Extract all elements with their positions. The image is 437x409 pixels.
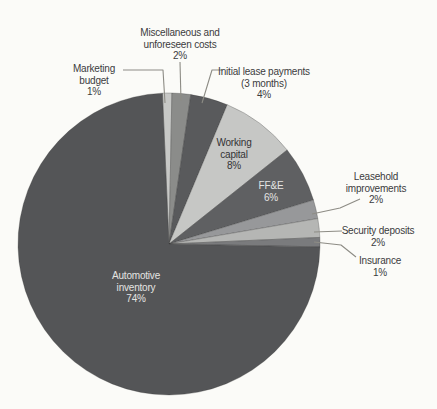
label-value: 2%	[342, 237, 415, 249]
label-line: Working	[216, 137, 251, 149]
pie-chart-figure: Marketing budget 1% Miscellaneous and un…	[0, 0, 437, 409]
label-value: 2%	[346, 194, 406, 206]
label-leasehold-improvements: Leasehold improvements 2%	[346, 171, 406, 206]
label-line: Miscellaneous and	[140, 27, 219, 39]
label-ffe: FF&E 6%	[259, 180, 284, 203]
label-line: Leasehold	[346, 171, 406, 183]
label-value: 6%	[259, 192, 284, 204]
label-value: 8%	[216, 160, 251, 172]
label-value: 1%	[73, 86, 115, 98]
label-line: inventory	[112, 282, 160, 294]
label-initial-lease-payments: Initial lease payments (3 months) 4%	[218, 66, 310, 101]
label-insurance: Insurance 1%	[359, 255, 401, 278]
label-automotive-inventory: Automotive inventory 74%	[112, 270, 160, 305]
label-line: budget	[73, 75, 115, 87]
label-line: unforeseen costs	[140, 39, 219, 51]
label-marketing-budget: Marketing budget 1%	[73, 63, 115, 98]
label-value: 74%	[112, 293, 160, 305]
label-working-capital: Working capital 8%	[216, 137, 251, 172]
label-value: 1%	[359, 267, 401, 279]
label-line: Automotive	[112, 270, 160, 282]
label-value: 4%	[218, 89, 310, 101]
label-security-deposits: Security deposits 2%	[342, 225, 415, 248]
label-line: Initial lease payments	[218, 66, 310, 78]
pie-slices-group	[18, 93, 320, 395]
label-line: improvements	[346, 183, 406, 195]
label-line: Insurance	[359, 255, 401, 267]
label-line: capital	[216, 149, 251, 161]
label-line: Marketing	[73, 63, 115, 75]
label-line: Security deposits	[342, 225, 415, 237]
label-line: (3 months)	[218, 78, 310, 90]
label-value: 2%	[140, 50, 219, 62]
label-line: FF&E	[259, 180, 284, 192]
label-miscellaneous-costs: Miscellaneous and unforeseen costs 2%	[140, 27, 219, 62]
